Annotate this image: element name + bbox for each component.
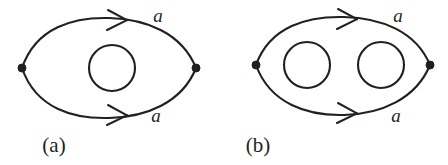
panel-b-vertex-right	[426, 61, 434, 69]
panel-a-top-edge	[22, 18, 196, 68]
panel-b-top-edge-label: a	[393, 5, 403, 26]
panel-b-inner-loop-1	[284, 42, 330, 88]
panel-a-top-arrowhead-lower	[107, 20, 127, 30]
panel-a-caption: (a)	[42, 133, 65, 157]
panel-a-bottom-arrowhead-icon	[107, 105, 127, 125]
panel-b-inner-loop-2	[358, 42, 404, 88]
figure-container: a a (a) a a (b)	[0, 0, 448, 165]
panel-a-bottom-arrowhead-upper	[108, 105, 127, 115]
panel-b-top-arrowhead-icon	[337, 9, 357, 29]
panel-b-bottom-arrowhead-upper	[338, 103, 357, 113]
panel-b-bottom-edge	[256, 65, 430, 115]
panel-a-bottom-edge	[22, 68, 196, 118]
panel-a-bottom-edge-label: a	[151, 105, 161, 126]
panel-b: a a (b)	[246, 5, 434, 157]
panel-b-bottom-edge-label: a	[391, 105, 401, 126]
panel-b-bottom-arrowhead-icon	[337, 103, 357, 123]
panel-b-caption: (b)	[246, 133, 271, 157]
panel-b-top-arrowhead-lower	[337, 19, 357, 29]
panel-b-vertex-left	[252, 61, 260, 69]
knot-diagram-figure: a a (a) a a (b)	[0, 0, 448, 165]
panel-a-inner-loop-1	[89, 45, 135, 91]
panel-a-vertex-left	[18, 64, 26, 72]
panel-a-top-edge-label: a	[153, 5, 163, 26]
panel-a: a a (a)	[18, 5, 200, 157]
panel-a-vertex-right	[192, 64, 200, 72]
